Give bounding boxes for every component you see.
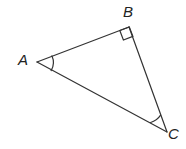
- segment-BC: [129, 27, 167, 132]
- angle-arc-a: [51, 56, 53, 71]
- vertex-label-b: B: [123, 4, 133, 19]
- segment-AB: [37, 27, 129, 62]
- angle-arc-c: [151, 115, 161, 122]
- vertex-label-a: A: [18, 52, 28, 67]
- segment-AC: [37, 62, 167, 132]
- triangle-svg: [0, 0, 186, 149]
- vertex-label-c: C: [168, 126, 179, 141]
- geometry-figure: A B C: [0, 0, 186, 149]
